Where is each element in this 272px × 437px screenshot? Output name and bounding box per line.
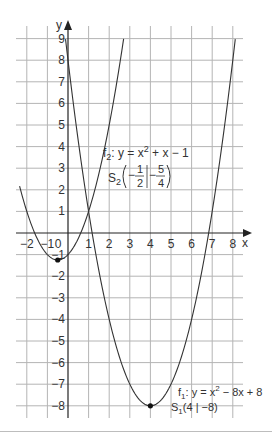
f1-vertex-point: [148, 403, 153, 408]
svg-text:−: −: [128, 168, 135, 182]
y-tick-label: 4: [58, 140, 65, 154]
y-tick-label: 7: [58, 75, 65, 89]
f2-vertex-point: [55, 257, 60, 262]
curves: [20, 39, 236, 409]
svg-text:4: 4: [158, 177, 164, 189]
f2-curve: [20, 39, 124, 260]
function-graph: −2−1012345678987654321−1−2−3−4−5−6−7−8 y…: [0, 0, 272, 437]
bottom-divider: [0, 431, 272, 432]
y-axis-label: y: [56, 18, 62, 32]
y-tick-label: −7: [51, 377, 65, 391]
y-tick-label: 8: [58, 53, 65, 67]
svg-text:1: 1: [137, 163, 143, 175]
y-tick-label: 2: [58, 183, 65, 197]
grid-lines: [16, 26, 243, 418]
tick-labels: −2−1012345678987654321−1−2−3−4−5−6−7−8: [20, 32, 237, 413]
y-tick-label: −4: [51, 312, 65, 326]
x-tick-label: 2: [106, 237, 113, 251]
svg-text:−: −: [149, 168, 156, 182]
y-tick-label: −8: [51, 399, 65, 413]
s1-vertex-label: S1(4 | −8): [171, 401, 218, 416]
x-tick-label: 6: [188, 237, 195, 251]
y-tick-label: −3: [51, 291, 65, 305]
y-tick-label: −5: [51, 334, 65, 348]
f2-equation-label: f2: y = x2 + x − 1: [103, 144, 189, 162]
x-tick-label: 8: [229, 237, 236, 251]
y-tick-label: 6: [58, 96, 65, 110]
svg-text:2: 2: [137, 177, 143, 189]
x-tick-label: 1: [85, 237, 92, 251]
x-tick-label: −2: [20, 237, 34, 251]
y-tick-label: 5: [58, 118, 65, 132]
f1-equation-label: f1: y = x2 − 8x + 8: [178, 384, 262, 401]
y-tick-label: 1: [58, 204, 65, 218]
s2-vertex-label: S2 − 1 2 − 5 4: [108, 163, 170, 189]
y-tick-label: −2: [51, 269, 65, 283]
y-tick-label: 3: [58, 161, 65, 175]
x-tick-label: 4: [147, 237, 154, 251]
y-axis-arrow-icon: [64, 20, 72, 30]
x-tick-label: 3: [126, 237, 133, 251]
x-tick-label: 5: [168, 237, 175, 251]
y-tick-label: −6: [51, 356, 65, 370]
svg-text:S2: S2: [108, 171, 121, 187]
y-tick-label: 9: [58, 32, 65, 46]
x-tick-label: 7: [209, 237, 216, 251]
x-axis-label: x: [242, 236, 248, 250]
svg-text:5: 5: [158, 163, 164, 175]
